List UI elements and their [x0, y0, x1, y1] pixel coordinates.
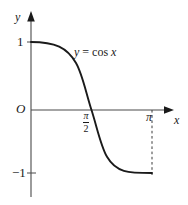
y-axis-label: y [15, 11, 20, 23]
y-tick-label-one: 1 [17, 35, 24, 48]
equation-lhs: y [74, 45, 79, 59]
x-tick-label-half-pi: π 2 [79, 111, 93, 134]
equation-equals: = [82, 45, 89, 59]
cosine-curve [31, 42, 152, 173]
fraction-half-pi: π 2 [83, 111, 88, 134]
x-axis-label: x [174, 114, 179, 126]
y-axis-arrowhead [27, 11, 35, 22]
x-axis-arrowhead [164, 106, 174, 114]
origin-label: O [16, 102, 25, 115]
curve-equation-label: y = cos x [74, 46, 116, 58]
plot-canvas [0, 0, 188, 205]
cosine-graph-figure: y x O 1 −1 π 2 π y = cos x [0, 0, 188, 205]
fraction-denominator: 2 [83, 124, 88, 135]
equation-argument: x [111, 45, 116, 59]
equation-function-name: cos [92, 45, 108, 59]
fraction-numerator: π [83, 111, 88, 122]
x-tick-label-pi: π [146, 111, 152, 123]
y-tick-label-negative-one: −1 [12, 166, 26, 179]
